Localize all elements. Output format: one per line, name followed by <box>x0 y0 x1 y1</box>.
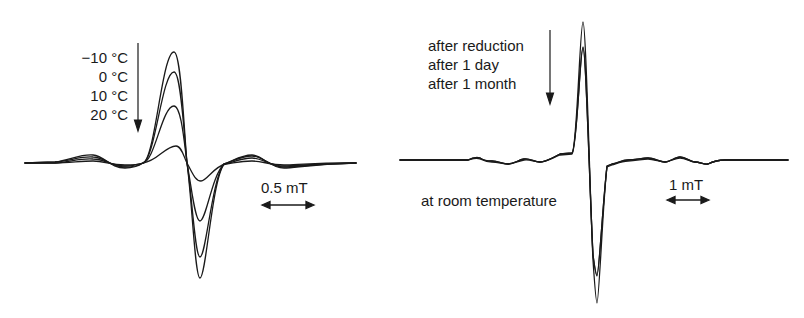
curve-20c <box>25 146 356 181</box>
legend-item: −10 °C <box>68 48 128 67</box>
left-scale-bar-arrow <box>262 202 314 209</box>
left-legend: −10 °C 0 °C 10 °C 20 °C <box>68 48 128 124</box>
legend-item: after 1 day <box>428 55 524 74</box>
legend-item: 10 °C <box>68 86 128 105</box>
condition-label: at room temperature <box>421 191 557 210</box>
right-scale-bar-arrow <box>667 197 709 204</box>
legend-item: 0 °C <box>68 67 128 86</box>
left-legend-arrow <box>135 43 142 131</box>
right-legend: after reduction after 1 day after 1 mont… <box>428 36 524 93</box>
legend-item: 20 °C <box>68 105 128 124</box>
legend-item: after 1 month <box>428 74 524 93</box>
epr-figure: −10 °C 0 °C 10 °C 20 °C 0.5 mT after red… <box>0 0 804 318</box>
right-legend-arrow <box>547 30 554 104</box>
legend-item: after reduction <box>428 36 524 55</box>
right-scale-label: 1 mT <box>669 175 703 194</box>
left-scale-label: 0.5 mT <box>261 178 308 197</box>
